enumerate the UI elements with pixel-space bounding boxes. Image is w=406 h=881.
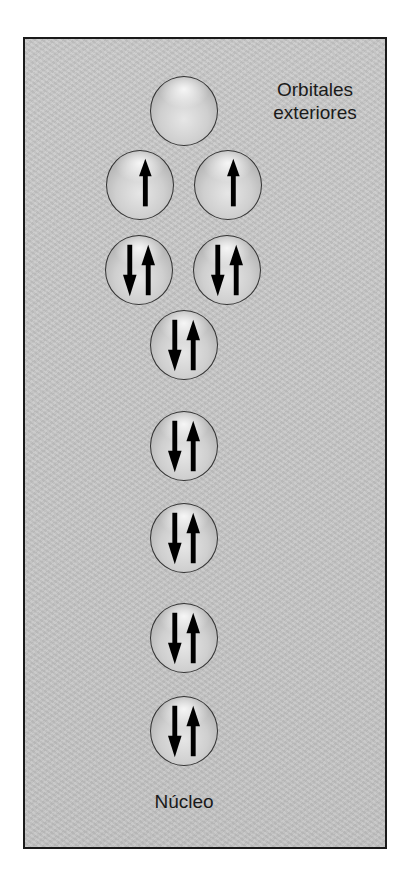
outer-orbitals-label-line-2: exteriores — [255, 101, 375, 124]
paired-arrows-icon — [194, 236, 260, 304]
orbital-paired — [150, 603, 218, 673]
paired-arrows-icon — [151, 604, 217, 672]
orbital-paired — [150, 696, 218, 766]
paired-arrows-icon — [151, 697, 217, 765]
orbital-single-up — [106, 150, 174, 220]
nucleus-label: Núcleo — [124, 790, 244, 813]
orbital-empty — [150, 76, 218, 146]
orbital-paired — [105, 235, 173, 305]
orbital-paired — [150, 503, 218, 573]
paired-arrows-icon — [151, 504, 217, 572]
orbital-single-up — [194, 150, 262, 220]
up-arrow-icon — [195, 151, 261, 219]
orbital-paired — [193, 235, 261, 305]
up-arrow-icon — [107, 151, 173, 219]
orbital-paired — [150, 310, 218, 380]
paired-arrows-icon — [151, 412, 217, 480]
paired-arrows-icon — [106, 236, 172, 304]
paired-arrows-icon — [151, 311, 217, 379]
outer-orbitals-label: Orbitales exteriores — [255, 78, 375, 124]
orbital-paired — [150, 411, 218, 481]
outer-orbitals-label-line-1: Orbitales — [255, 78, 375, 101]
